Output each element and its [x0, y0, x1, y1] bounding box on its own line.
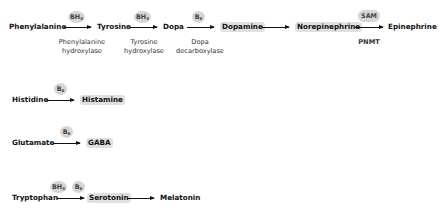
arrow-norepinephrine-epinephrine: [355, 27, 383, 28]
enzyme-dopa-decarboxylase: Dopadecarboxylase: [170, 38, 230, 56]
node-histamine: Histamine: [80, 95, 125, 105]
arrow-dopa-dopamine: [187, 27, 214, 28]
node-dopamine: Dopamine: [220, 22, 265, 32]
cofactor-bh4: BH4: [68, 11, 85, 23]
node-histidine: Histidine: [12, 95, 48, 105]
arrow-tyr-dopa: [130, 27, 157, 28]
enzyme-phenylalanine-hydroxylase: Phenylalaninehydroxylase: [52, 38, 112, 56]
arrow-tryptophan-serotonin: [57, 198, 84, 199]
arrow-phe-tyr: [64, 27, 91, 28]
node-glutamate: Glutamate: [12, 138, 54, 148]
node-serotonin: Serotonin: [87, 193, 131, 203]
node-phenylalanine: Phenylalanine: [9, 22, 66, 32]
node-dopa: Dopa: [163, 22, 184, 32]
cofactor-b6: B6: [60, 126, 73, 138]
arrow-glutamate-gaba: [53, 143, 80, 144]
node-norepinephrine: Norepinephrine: [295, 22, 362, 32]
node-epinephrine: Epinephrine: [388, 22, 437, 32]
cofactor-b6: B6: [192, 11, 205, 23]
enzyme-tyrosine-hydroxylase: Tyrosinehydroxylase: [119, 38, 169, 56]
node-tryptophan: Tryptophan: [12, 193, 58, 203]
cofactor-bh4: BH4: [50, 181, 67, 193]
cofactor-b6: B6: [72, 181, 85, 193]
cofactor-bh4: BH4: [134, 11, 151, 23]
cofactor-sam: SAM: [358, 10, 380, 22]
node-gaba: GABA: [86, 138, 113, 148]
node-tyrosine: Tyrosine: [97, 22, 131, 32]
arrow-histidine-histamine: [47, 100, 74, 101]
node-melatonin: Melatonin: [160, 193, 200, 203]
arrow-dopamine-norepinephrine: [262, 27, 289, 28]
cofactor-b6: B6: [54, 83, 67, 95]
enzyme-pnmt: PNMT: [354, 38, 384, 47]
arrow-serotonin-melatonin: [127, 198, 154, 199]
